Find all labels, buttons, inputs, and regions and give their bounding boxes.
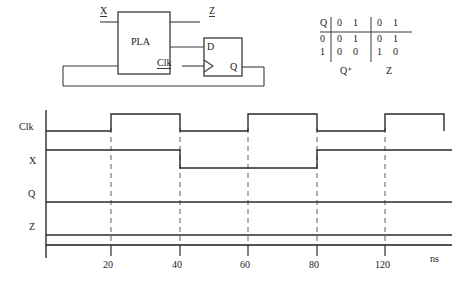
truth-table-rules <box>320 17 412 62</box>
truth-table-nextstate-caption: Q⁺ <box>340 65 352 76</box>
truth-table-colhdr-left-0: 0 <box>337 17 342 28</box>
truth-table-row1-z-1: 0 <box>393 46 398 57</box>
truth-table-row0-qplus-1: 1 <box>353 33 358 44</box>
truth-table-row0-qplus-0: 0 <box>337 33 342 44</box>
dff-d-label: D <box>207 41 214 52</box>
truth-table-output-caption: Z <box>386 65 392 76</box>
truth-table-row0-z-0: 0 <box>377 33 382 44</box>
pla-label: PLA <box>131 36 150 47</box>
truth-table-row1-q: 1 <box>320 46 325 57</box>
waveform-label-x: X <box>29 155 36 166</box>
waveform-label-q: Q <box>28 188 35 199</box>
edge-guides <box>111 128 385 245</box>
waveform-x <box>46 150 452 168</box>
waveform-axes <box>46 110 452 258</box>
circuit-output-label: Z <box>209 6 215 17</box>
x-tick-label-40: 40 <box>172 259 182 270</box>
truth-table-colhdr-right-1: 1 <box>393 17 398 28</box>
truth-table-row-header: Q <box>320 17 327 28</box>
truth-table-colhdr-left-1: 1 <box>353 17 358 28</box>
figure-root: X Z PLA D Clk Q Q 0 1 0 1 0 0 1 0 1 1 0 … <box>0 0 466 286</box>
x-tick-label-80: 80 <box>309 259 319 270</box>
truth-table-row0-q: 0 <box>320 33 325 44</box>
x-tick-label-120: 120 <box>375 259 390 270</box>
truth-table-row0-z-1: 1 <box>393 33 398 44</box>
dff-clk-label: Clk <box>157 58 171 69</box>
truth-table-row1-qplus-0: 0 <box>337 46 342 57</box>
x-axis-units-label: ns <box>430 253 439 264</box>
dff-q-label: Q <box>230 61 237 72</box>
waveform-label-clk: Clk <box>19 121 33 132</box>
x-tick-label-60: 60 <box>240 259 250 270</box>
truth-table-colhdr-right-0: 0 <box>377 17 382 28</box>
circuit-input-label: X <box>100 6 107 17</box>
waveform-clk <box>46 114 444 131</box>
waveform-label-z: Z <box>29 221 35 232</box>
x-tick-label-20: 20 <box>103 259 113 270</box>
truth-table-row1-z-0: 1 <box>377 46 382 57</box>
truth-table-row1-qplus-1: 0 <box>353 46 358 57</box>
